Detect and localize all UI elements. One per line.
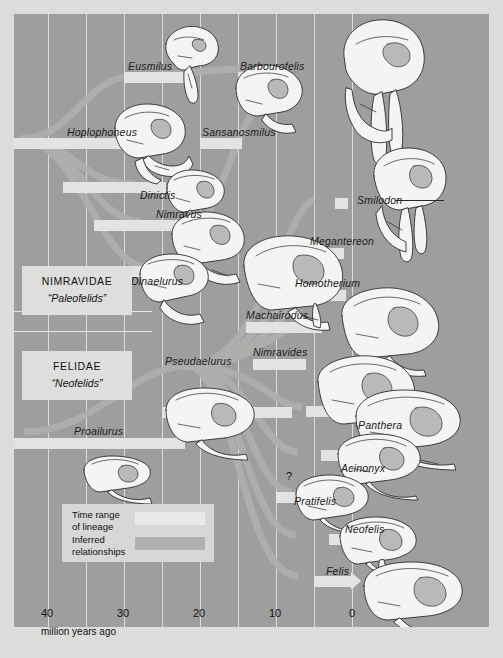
axis-tick-10: 10 <box>269 607 281 619</box>
axis-tick-30: 30 <box>117 607 129 619</box>
time-axis: 40 30 20 10 0 million years ago <box>0 0 503 658</box>
axis-tick-40: 40 <box>41 607 53 619</box>
axis-tick-0: 0 <box>349 607 355 619</box>
evolution-timeline-figure: Eusmilus Barbourofelis Hoplophoneus Sans… <box>0 0 503 658</box>
axis-title: million years ago <box>41 626 116 637</box>
axis-tick-20: 20 <box>193 607 205 619</box>
